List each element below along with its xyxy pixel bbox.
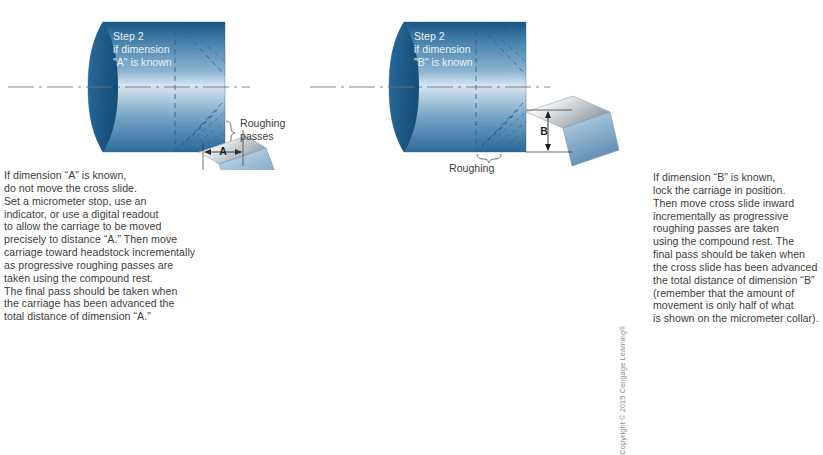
diagram-panel-a: A Step 2 if dimension "A" is known Rough… [0,0,309,329]
diagram-panel-b: B Step 2 if dimension "B" is known Rough… [310,0,619,329]
dimension-b-label: B [540,125,548,137]
roughing-passes-label-b: Roughing passes [449,162,497,175]
workpiece-illustration-a: A Step 2 if dimension "A" is known Rough… [0,0,309,170]
dimension-a-label: A [219,145,227,157]
copyright-notice: Copyright © 2015 Cengage Learning® [618,325,627,454]
workpiece-illustration-b: B Step 2 if dimension "B" is known Rough… [310,0,619,175]
caption-text-b: If dimension “B” is known, lock the carr… [653,171,823,325]
roughing-passes-label-a: Roughing passes [240,117,288,142]
caption-text-a: If dimension “A” is known, do not move t… [4,169,234,323]
